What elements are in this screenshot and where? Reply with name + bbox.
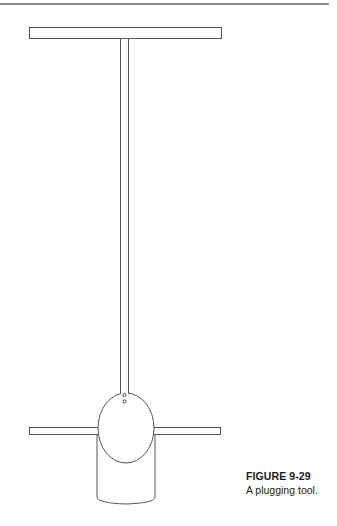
ball-head	[98, 393, 154, 463]
rivet-icon	[123, 393, 126, 396]
figure-caption-text: A plugging tool.	[246, 483, 318, 498]
top-handle	[30, 28, 222, 39]
rivet-icon	[123, 400, 126, 403]
shaft	[121, 39, 129, 396]
cross-bar-right	[154, 428, 221, 435]
figure-label: FIGURE 9-29	[246, 469, 318, 483]
figure-caption: FIGURE 9-29 A plugging tool.	[246, 469, 318, 498]
cross-bar-left	[30, 428, 102, 435]
plugging-tool-diagram	[0, 0, 337, 526]
